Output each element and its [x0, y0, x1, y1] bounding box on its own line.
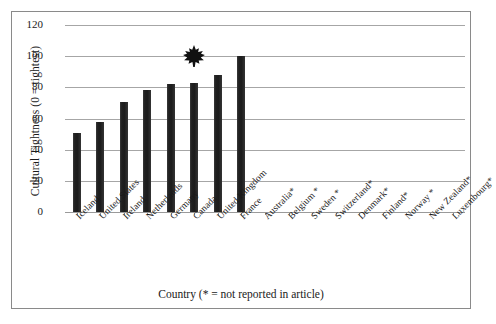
- y-axis-tick-label: 40: [7, 144, 43, 155]
- y-axis-tick-label: 80: [7, 81, 43, 92]
- gridline: [65, 87, 465, 88]
- plot-area: 020406080100120: [65, 25, 465, 212]
- gridline: [65, 56, 465, 57]
- bar[interactable]: [143, 90, 151, 212]
- x-axis-title: Country (* = not reported in article): [0, 288, 482, 300]
- x-axis-tick-labels: IcelandUnited StatesIrelandNetherlandsGe…: [65, 214, 465, 288]
- y-axis-tick-label: 0: [7, 206, 43, 217]
- bar[interactable]: [214, 75, 222, 212]
- y-axis-tick-label: 60: [7, 113, 43, 124]
- y-axis-tick-label: 20: [7, 175, 43, 186]
- gridline: [65, 25, 465, 26]
- y-axis-tick-label: 100: [7, 50, 43, 61]
- bar[interactable]: [73, 133, 81, 212]
- y-axis-tick-label: 120: [7, 19, 43, 30]
- maple-leaf-icon: [181, 43, 207, 69]
